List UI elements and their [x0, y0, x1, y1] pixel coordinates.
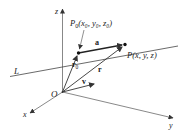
- point-P-label: P(x, y, z): [126, 50, 157, 60]
- p0-leader-line: [80, 30, 85, 49]
- origin-label: O: [51, 89, 58, 99]
- x-axis: [30, 92, 63, 113]
- x-axis-label: x: [22, 110, 27, 119]
- point-P0-label: P0(x₀, y₀, z₀): [69, 18, 112, 29]
- vector-equation-of-line-diagram: z x y O L P0(x₀, y₀, z₀) P(x, y, z) a r0…: [0, 0, 182, 139]
- point-P0: [77, 51, 80, 54]
- vector-a-label: a: [95, 38, 99, 47]
- diagram-canvas: z x y O L P0(x₀, y₀, z₀) P(x, y, z) a r0…: [0, 0, 182, 139]
- origin-point: [62, 91, 64, 93]
- line-L-label: L: [13, 66, 19, 76]
- vector-r0-label: r0: [72, 60, 79, 70]
- y-axis: [63, 92, 174, 118]
- y-axis-label: y: [168, 121, 173, 130]
- vector-r-label: r: [98, 65, 102, 74]
- z-axis-label: z: [54, 7, 59, 16]
- point-P: [123, 43, 126, 46]
- vector-v-label: v: [82, 77, 86, 86]
